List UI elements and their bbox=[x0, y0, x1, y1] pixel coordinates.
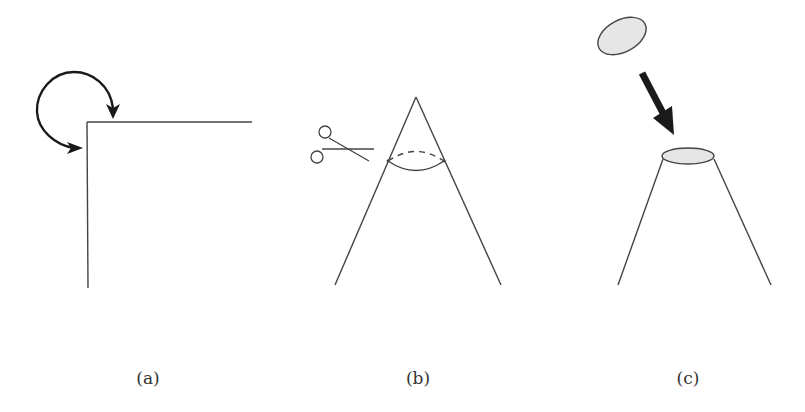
curved-arrow-icon bbox=[37, 72, 120, 154]
scissors-icon bbox=[311, 126, 374, 163]
figure-canvas bbox=[0, 0, 805, 412]
truncated-cone-right-edge bbox=[714, 159, 771, 285]
truncated-cone-left-edge bbox=[618, 159, 663, 285]
corner-vertical-edge bbox=[87, 122, 88, 288]
caption-a: (a) bbox=[136, 368, 159, 388]
cone-top-disc bbox=[662, 148, 714, 164]
cut-ellipse-front bbox=[388, 161, 444, 171]
arrow-down-right-icon bbox=[642, 73, 674, 135]
cone-right-edge bbox=[416, 97, 501, 285]
caption-b: (b) bbox=[406, 368, 430, 388]
cut-ellipse-back-dashed bbox=[388, 152, 444, 162]
caption-c: (c) bbox=[677, 368, 700, 388]
panel-b bbox=[311, 97, 501, 285]
panel-c bbox=[592, 10, 771, 285]
floating-disc bbox=[592, 10, 653, 63]
panel-a bbox=[37, 72, 252, 288]
cone-left-edge bbox=[335, 97, 416, 285]
